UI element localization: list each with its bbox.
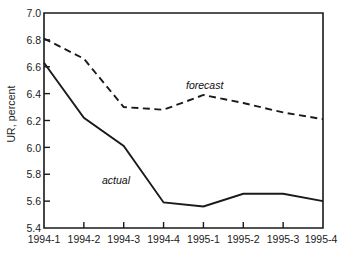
annotation-forecast: forecast [186,79,223,91]
x-tick-label: 1995-3 [267,234,300,245]
x-tick-label: 1995-2 [227,234,260,245]
x-tick-label: 1995-1 [187,234,220,245]
x-axis-tick-labels: 1994-1 1994-2 1994-3 1994-4 1995-1 1995-… [0,0,345,253]
x-tick-label: 1994-4 [147,234,180,245]
x-tick-label: 1994-3 [107,234,140,245]
unemployment-rate-line-chart: UR, percent 7.0 6.8 6.6 6.4 6.2 6.0 5.8 … [0,0,345,253]
x-tick-label: 1994-1 [28,234,61,245]
annotation-actual: actual [102,174,130,186]
x-tick-label: 1995-4 [305,234,338,245]
x-tick-label: 1994-2 [68,234,101,245]
